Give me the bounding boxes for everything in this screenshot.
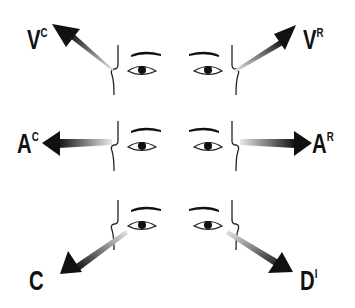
label-internal-dialogue: DI xyxy=(300,268,317,295)
arrow-up-left-icon xyxy=(52,24,114,72)
face-auditory xyxy=(111,121,238,171)
arrow-down-right-icon xyxy=(226,230,293,273)
row-visual xyxy=(52,24,296,95)
face-visual xyxy=(111,45,238,95)
row-auditory xyxy=(42,121,312,171)
label-auditory-remembered: AR xyxy=(312,131,334,158)
row-kinesthetic-dialogue xyxy=(60,200,293,274)
label-visual-constructed: VC xyxy=(27,27,48,54)
arrow-up-right-icon xyxy=(234,25,296,72)
label-kinesthetic: C xyxy=(29,268,44,295)
eye-diagram xyxy=(0,0,355,308)
face-kinesthetic-dialogue xyxy=(111,200,238,250)
arrow-right-icon xyxy=(240,131,312,156)
label-visual-remembered: VR xyxy=(303,27,324,54)
label-auditory-constructed: AC xyxy=(17,131,39,158)
arrow-left-icon xyxy=(42,131,112,156)
arrow-down-left-icon xyxy=(60,230,128,274)
